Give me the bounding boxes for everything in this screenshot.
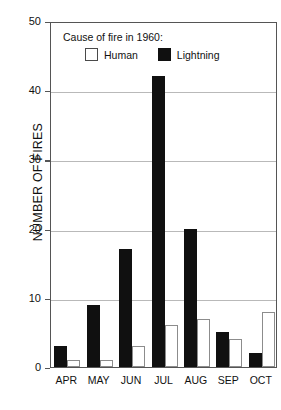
plot-area: Cause of fire in 1960: Human Lightning [50,22,277,368]
y-axis-title: NUMBER OF FIRES [31,82,45,282]
legend-entry-human: Human [85,48,138,61]
legend-entries: Human Lightning [63,48,268,61]
bar-group [119,23,145,367]
x-tick-label: JUN [115,374,147,386]
bar-lightning [216,332,229,367]
legend-entry-lightning: Lightning [158,48,220,61]
bar-group [184,23,210,367]
bar-group [54,23,80,367]
y-tick-label: 50 [1,15,41,27]
x-tick-label: SEP [212,374,244,386]
x-tick-label: OCT [245,374,277,386]
bar-human [197,319,210,367]
x-tick-label: JUL [147,374,179,386]
filled-square-swatch [158,48,171,61]
y-tick-mark [45,368,50,369]
bar-group [152,23,178,367]
bar-lightning [249,353,262,367]
bar-lightning [54,346,67,367]
x-tick-label: AUG [180,374,212,386]
y-tick-label: 20 [1,223,41,235]
x-tick-label: MAY [82,374,114,386]
legend-entry-label: Lightning [177,49,220,61]
open-square-swatch [85,48,98,61]
bar-lightning [119,249,132,367]
bar-human [67,360,80,367]
bar-lightning [184,229,197,367]
y-tick-label: 30 [1,153,41,165]
bar-human [229,339,242,367]
legend-title: Cause of fire in 1960: [63,31,268,43]
y-tick-label: 10 [1,292,41,304]
figure: NUMBER OF FIRES 01020304050 Cause of fir… [0,0,281,410]
bar-group [216,23,242,367]
bar-human [262,312,275,367]
legend-entry-label: Human [104,49,138,61]
bar-group [249,23,275,367]
bar-series-layer [51,23,276,367]
x-tick-label: APR [50,374,82,386]
y-tick-label: 0 [1,361,41,373]
bar-lightning [152,76,165,367]
legend: Cause of fire in 1960: Human Lightning [63,31,268,61]
bar-group [87,23,113,367]
bar-lightning [87,305,100,367]
bar-human [165,325,178,367]
y-tick-label: 40 [1,84,41,96]
bar-human [132,346,145,367]
bar-human [100,360,113,367]
